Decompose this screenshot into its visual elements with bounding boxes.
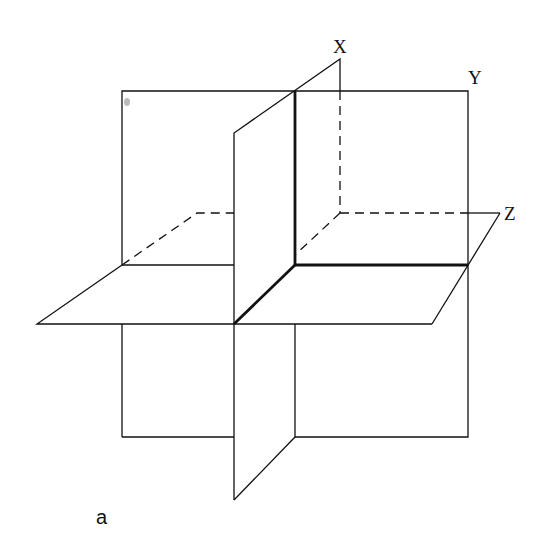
z-plane bbox=[37, 213, 500, 324]
smudge-mark bbox=[124, 98, 130, 106]
z-axis-label: Z bbox=[504, 203, 516, 224]
y-axis-label: Y bbox=[468, 67, 482, 88]
planes-diagram: X Y Z a bbox=[0, 0, 553, 541]
x-plane bbox=[234, 59, 340, 500]
x-axis-label: X bbox=[333, 36, 347, 57]
figure-caption: a bbox=[96, 506, 108, 528]
intersection-lines bbox=[234, 91, 468, 324]
